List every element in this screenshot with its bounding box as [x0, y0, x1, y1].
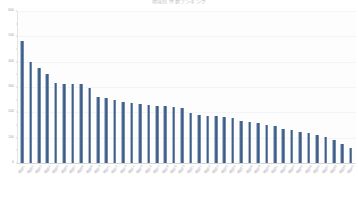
x-axis-tick-label: 項目34 [297, 165, 305, 175]
bar-slot [288, 11, 296, 163]
bar[interactable] [147, 105, 150, 163]
bar-slot [195, 11, 203, 163]
y-axis-tick-mark [16, 112, 18, 113]
x-axis-tick-label: 項目17 [154, 165, 162, 175]
x-axis-tick-label: 項目33 [288, 165, 296, 175]
bar[interactable] [63, 84, 66, 163]
bar-slot [313, 11, 321, 163]
x-axis-tick-label: 項目30 [263, 165, 271, 175]
bar[interactable] [105, 98, 108, 163]
bar[interactable] [341, 144, 344, 163]
bar-slot [69, 11, 77, 163]
x-axis-tick-label: 項目15 [137, 165, 145, 175]
x-axis-tick-label: 項目25 [221, 165, 229, 175]
bar[interactable] [198, 115, 201, 163]
bar[interactable] [97, 97, 100, 163]
x-axis-tick-label: 項目28 [246, 165, 254, 175]
bar[interactable] [38, 68, 41, 164]
bar-slot [136, 11, 144, 163]
bar[interactable] [215, 116, 218, 163]
bar[interactable] [21, 41, 24, 163]
bar[interactable] [324, 137, 327, 163]
y-axis-tick-mark [16, 36, 18, 37]
x-axis-tick-label: 項目29 [255, 165, 263, 175]
x-axis-tick-label: 項目21 [187, 165, 195, 175]
x-axis-tick-label: 項目13 [120, 165, 128, 175]
bar-slot [304, 11, 312, 163]
x-axis-tick-label: 項目35 [305, 165, 313, 175]
bar[interactable] [223, 117, 226, 163]
bar[interactable] [156, 106, 159, 163]
x-axis-tick-label: 項目31 [272, 165, 280, 175]
bar[interactable] [299, 132, 302, 163]
bar[interactable] [114, 100, 117, 163]
bar-slot [212, 11, 220, 163]
bar-slot [102, 11, 110, 163]
x-axis-tick-label: 項目08 [78, 165, 86, 175]
bar[interactable] [333, 140, 336, 163]
x-axis-tick-label: 項目37 [322, 165, 330, 175]
y-axis-tick-mark [16, 74, 18, 75]
x-axis-tick-label: 項目03 [36, 165, 44, 175]
bar[interactable] [316, 135, 319, 163]
bar-slot [119, 11, 127, 163]
bar[interactable] [55, 83, 58, 163]
bar[interactable] [164, 106, 167, 163]
bar-chart-figure: 地域別 件数ランキング 0100200300400500600 項目01項目02… [0, 0, 358, 204]
bar[interactable] [71, 84, 74, 163]
x-axis-tick-label: 項目14 [128, 165, 136, 175]
bar[interactable] [349, 148, 352, 163]
bar-slot [220, 11, 228, 163]
bar-slot [330, 11, 338, 163]
bars-layer [18, 11, 355, 163]
bar[interactable] [307, 133, 310, 163]
bar[interactable] [139, 104, 142, 163]
x-axis-tick-label: 項目24 [213, 165, 221, 175]
x-axis-labels: 項目01項目02項目03項目04項目05項目06項目07項目08項目09項目10… [18, 165, 355, 204]
bar[interactable] [274, 126, 277, 163]
bar[interactable] [240, 121, 243, 163]
bar[interactable] [265, 125, 268, 163]
x-axis-tick-label: 項目39 [339, 165, 347, 175]
x-axis-tick-label: 項目10 [95, 165, 103, 175]
bar-slot [60, 11, 68, 163]
chart-title: 地域別 件数ランキング [0, 0, 358, 4]
bar[interactable] [189, 113, 192, 163]
bar[interactable] [181, 108, 184, 163]
bar-slot [321, 11, 329, 163]
y-axis: 0100200300400500600 [0, 11, 17, 163]
x-axis-tick-label: 項目19 [171, 165, 179, 175]
bar[interactable] [173, 107, 176, 163]
x-axis-tick-label: 項目23 [204, 165, 212, 175]
bar-slot [187, 11, 195, 163]
x-axis-tick-label: 項目36 [314, 165, 322, 175]
bar[interactable] [130, 103, 133, 163]
y-axis-tick-label: 200 [8, 111, 14, 114]
y-axis-tick-label: 400 [8, 60, 14, 63]
bar-slot [43, 11, 51, 163]
x-axis-line [17, 163, 355, 164]
x-axis-tick-label: 項目02 [27, 165, 35, 175]
x-axis-tick-label: 項目40 [347, 165, 355, 175]
bar[interactable] [291, 130, 294, 163]
bar[interactable] [46, 74, 49, 163]
y-axis-tick-mark [16, 23, 18, 24]
bar[interactable] [88, 88, 91, 163]
y-axis-tick-mark [16, 99, 18, 100]
y-axis-tick-label: 0 [12, 161, 14, 164]
bar-slot [18, 11, 26, 163]
bar[interactable] [122, 102, 125, 163]
bar-slot [85, 11, 93, 163]
bar-slot [111, 11, 119, 163]
bar[interactable] [232, 118, 235, 163]
x-axis-tick-label: 項目20 [179, 165, 187, 175]
x-axis-tick-label: 項目16 [145, 165, 153, 175]
bar[interactable] [206, 116, 209, 163]
bar[interactable] [80, 84, 83, 163]
bar[interactable] [29, 62, 32, 163]
bar[interactable] [248, 122, 251, 163]
bar[interactable] [282, 129, 285, 163]
bar-slot [347, 11, 355, 163]
bar-slot [94, 11, 102, 163]
bar[interactable] [257, 123, 260, 163]
